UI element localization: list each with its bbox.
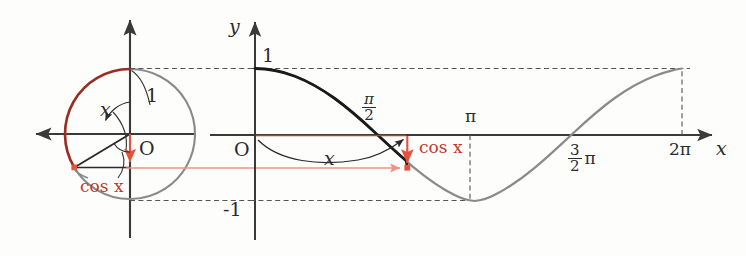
circle-angle-arc-inner [114,144,130,153]
tick-pi-text: π [465,106,476,126]
tick-pi-over-2-numerator: π [362,92,376,107]
graph-cos-label: cos x [419,139,462,156]
graph-y-axis-label: y [229,17,240,36]
diagram-svg [0,0,746,256]
tick-label-3pi-over-2: 3 2 π [568,142,596,175]
graph-y-min-label: -1 [223,200,242,219]
tick-label-pi: π [465,108,476,125]
tick-3pi-over-2-denominator: 2 [568,158,582,174]
graph-origin-label: O [234,140,250,159]
curve-point-marker [404,165,410,171]
tick-label-pi-over-2: π 2 [362,92,376,124]
circle-radius-label: 1 [146,86,158,105]
cos-leg-leader-left [118,152,124,178]
graph-y-max-label: 1 [262,46,274,65]
figure-canvas: O 1 x cos x y x O 1 -1 x cos x π 2 π 3 2… [0,0,746,256]
tick-2pi-text: 2π [669,139,691,159]
graph-x-axis-label: x [716,139,727,158]
circle-angle-label: x [100,100,111,119]
tick-3pi-over-2-numerator: 3 [568,143,582,158]
circle-origin-label: O [139,139,155,158]
graph-angle-label: x [324,149,335,168]
tick-3pi-over-2-suffix: π [585,150,596,167]
tick-pi-over-2-denominator: 2 [362,107,376,123]
circle-cos-label: cos x [80,178,123,195]
tick-label-2pi: 2π [669,141,691,158]
